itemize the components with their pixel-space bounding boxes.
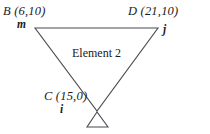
node-i-coordinate-label: C (15,0) [44,90,87,103]
node-j-label: j [163,24,166,36]
node-m-coordinate-label: B (6,10) [3,5,46,18]
diagram-canvas: B (6,10) m D (21,10) j C (15,0) i Elemen… [0,0,210,134]
pin-support-icon [87,112,108,127]
node-i-label: i [60,104,63,116]
node-j-coordinate-label: D (21,10) [128,5,178,18]
element-geometry-svg [0,0,210,134]
element-name-label: Element 2 [72,47,121,59]
node-m-label: m [17,19,26,31]
